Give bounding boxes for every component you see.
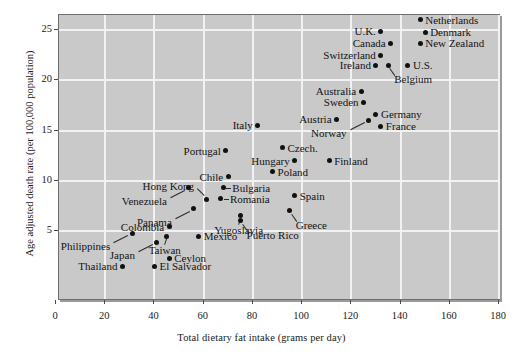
data-point[interactable] — [120, 264, 125, 269]
data-point-label: Ireland — [340, 60, 371, 71]
scatter-plot-figure: ThailandEl SalvadorJapanPhilippinesCeylo… — [0, 0, 523, 356]
data-point-label: Puerto Rico — [247, 229, 299, 240]
data-point-label: Chile — [199, 171, 223, 182]
data-point-label: Denmark — [430, 27, 471, 38]
data-point[interactable] — [164, 234, 169, 239]
data-point[interactable] — [378, 29, 383, 34]
data-point-label: Greece — [296, 219, 327, 230]
x-tick-label: 180 — [478, 310, 518, 321]
data-point[interactable] — [388, 41, 393, 46]
data-point-label: Italy — [233, 120, 253, 131]
data-point[interactable] — [196, 234, 201, 239]
y-axis-title: Age adjusted death rate (per 100,000 pop… — [24, 9, 35, 299]
data-point-label: U.S. — [413, 60, 433, 71]
data-point[interactable] — [221, 185, 226, 190]
data-point-label: Taiwan — [149, 245, 181, 256]
x-tick-label: 20 — [84, 310, 124, 321]
data-point[interactable] — [378, 124, 383, 129]
data-point[interactable] — [327, 158, 332, 163]
data-point[interactable] — [405, 63, 410, 68]
plot-area: ThailandEl SalvadorJapanPhilippinesCeylo… — [58, 14, 500, 300]
data-point-label: Switzerland — [323, 50, 376, 61]
gridline-vertical — [153, 15, 155, 299]
data-point[interactable] — [418, 17, 423, 22]
data-point-label: Philippines — [61, 241, 111, 252]
label-leader-line — [224, 199, 229, 200]
x-tick-label: 100 — [281, 310, 321, 321]
data-point-label: Hungary — [251, 155, 290, 166]
data-point[interactable] — [366, 118, 371, 123]
data-point-label: New Zealand — [425, 38, 484, 49]
data-point-label: Hong Kong — [142, 180, 194, 191]
x-tick-label: 160 — [429, 310, 469, 321]
data-point[interactable] — [204, 197, 209, 202]
gridline-horizontal — [59, 79, 499, 81]
label-leader-line — [175, 211, 189, 219]
data-point-label: Sweden — [324, 97, 359, 108]
data-point[interactable] — [373, 63, 378, 68]
data-point-label: Venezuela — [122, 195, 167, 206]
data-point-label: Poland — [278, 166, 309, 177]
data-point[interactable] — [423, 30, 428, 35]
y-tick-mark — [54, 180, 58, 181]
data-point[interactable] — [373, 112, 378, 117]
x-tick-mark — [55, 300, 56, 304]
data-point-label: Panama — [137, 216, 172, 227]
data-point[interactable] — [223, 148, 228, 153]
data-point[interactable] — [226, 174, 231, 179]
data-point-label: Netherlands — [425, 14, 478, 25]
data-point-label: Belgium — [394, 74, 432, 85]
data-point[interactable] — [334, 117, 339, 122]
data-point-label: Germany — [381, 109, 422, 120]
data-point-label: Spain — [300, 190, 325, 201]
data-point[interactable] — [167, 256, 172, 261]
x-tick-mark — [252, 300, 253, 304]
label-leader-line — [114, 235, 128, 243]
x-tick-mark — [203, 300, 204, 304]
x-tick-mark — [400, 300, 401, 304]
data-point[interactable] — [191, 206, 196, 211]
y-tick-mark — [54, 29, 58, 30]
x-tick-mark — [449, 300, 450, 304]
data-point-label: France — [386, 121, 416, 132]
y-tick-mark — [54, 130, 58, 131]
data-point[interactable] — [218, 196, 223, 201]
y-tick-mark — [54, 230, 58, 231]
x-tick-label: 60 — [183, 310, 223, 321]
data-point-label: Finland — [334, 155, 368, 166]
x-tick-mark — [498, 300, 499, 304]
gridline-vertical — [498, 15, 500, 299]
data-point[interactable] — [386, 63, 391, 68]
gridline-vertical — [400, 15, 402, 299]
gridline-horizontal — [59, 130, 499, 132]
data-point-label: Austria — [299, 114, 331, 125]
data-point[interactable] — [152, 264, 157, 269]
data-point[interactable] — [361, 100, 366, 105]
data-point-label: Thailand — [78, 261, 117, 272]
x-tick-mark — [350, 300, 351, 304]
data-point-label: Japan — [110, 250, 135, 261]
data-point-label: Canada — [353, 38, 386, 49]
x-tick-mark — [153, 300, 154, 304]
data-point[interactable] — [418, 41, 423, 46]
data-point-label: Australia — [316, 86, 356, 97]
gridline-vertical — [449, 15, 451, 299]
y-tick-mark — [54, 79, 58, 80]
data-point[interactable] — [292, 158, 297, 163]
data-point[interactable] — [378, 53, 383, 58]
x-tick-mark — [104, 300, 105, 304]
x-axis-title: Total dietary fat intake (grams per day) — [0, 332, 523, 343]
data-point-label: Portugal — [184, 145, 221, 156]
gridline-vertical — [301, 15, 303, 299]
gridline-horizontal — [59, 180, 499, 182]
data-point-label: U.K. — [354, 26, 375, 37]
data-point[interactable] — [292, 193, 297, 198]
x-tick-label: 40 — [133, 310, 173, 321]
data-point[interactable] — [270, 169, 275, 174]
data-point[interactable] — [280, 145, 285, 150]
data-point[interactable] — [255, 123, 260, 128]
data-point[interactable] — [359, 89, 364, 94]
data-point-label: Romania — [230, 193, 270, 204]
x-tick-label: 120 — [330, 310, 370, 321]
data-point-label: Czech. — [287, 142, 317, 153]
